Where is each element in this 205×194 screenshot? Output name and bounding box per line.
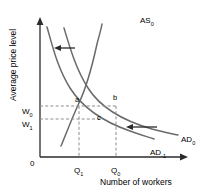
point-label-a: a	[75, 95, 79, 104]
ad-1-curve	[47, 27, 154, 139]
ad-1-label-sub: -1	[161, 153, 166, 159]
x-tick-q0-sub: 0	[117, 171, 120, 177]
ad-0-curve-label: AD0	[181, 128, 195, 146]
y-axis-title: Average price level	[8, 25, 18, 105]
ad-as-labor-market-chart: AS0 AD0 AD-1 a b c W0 W1 Q1 Q0 0 Number …	[0, 0, 205, 194]
ad-0-label-sub: 0	[192, 140, 195, 146]
x-axis-title: Number of workers	[100, 177, 172, 187]
x-tick-q0: Q0	[111, 159, 120, 177]
origin-label: 0	[30, 159, 34, 168]
as-label-sub: 0	[151, 21, 154, 27]
y-tick-w1-main: W	[22, 120, 30, 129]
x-axis-arrowhead	[180, 154, 188, 161]
upper-shift-arrow-icon	[54, 45, 75, 51]
x-tick-q1-sub: 1	[80, 171, 83, 177]
x-tick-q1: Q1	[74, 159, 83, 177]
y-tick-w1: W1	[22, 113, 33, 131]
y-tick-w1-sub: 1	[30, 125, 33, 131]
ad-1-label-main: AD	[150, 148, 161, 157]
y-axis	[37, 17, 44, 157]
ad-0-curve	[64, 28, 178, 135]
as-curve	[61, 24, 102, 146]
ad-0-label-main: AD	[181, 135, 192, 144]
ad-1-curve-label: AD-1	[150, 141, 166, 159]
point-label-b: b	[113, 93, 117, 102]
as-curve-label: AS0	[140, 9, 154, 27]
as-label-main: AS	[140, 16, 151, 25]
y-axis-arrowhead	[37, 17, 44, 25]
point-label-c: c	[97, 113, 101, 122]
